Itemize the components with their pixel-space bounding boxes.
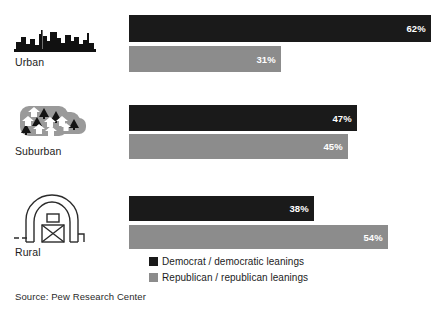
legend-swatch-democrat-icon	[149, 257, 158, 266]
legend-label-republican: Republican / republican leanings	[162, 272, 308, 283]
bar-rural-democrat: 38%	[129, 196, 314, 221]
bar-value-urban-republican: 31%	[256, 54, 281, 65]
bar-urban-republican: 31%	[129, 46, 281, 72]
bar-track-urban-democrat: 62%	[129, 15, 439, 42]
bar-chart: Urban 62% 31%	[0, 0, 443, 309]
bar-value-urban-democrat: 62%	[406, 23, 431, 34]
legend-label-democrat: Democrat / democratic leanings	[162, 256, 304, 267]
category-group-rural: Rural 38% 54%	[0, 190, 443, 258]
bar-rural-republican: 54%	[129, 225, 388, 249]
barn-icon	[12, 190, 98, 246]
bar-value-suburban-democrat: 47%	[332, 113, 357, 124]
category-group-suburban: Suburban 47% 45%	[0, 100, 443, 165]
bar-urban-democrat: 62%	[129, 15, 431, 42]
source-note: Source: Pew Research Center	[15, 291, 146, 302]
bar-track-suburban-democrat: 47%	[129, 105, 439, 131]
category-label-rural: Rural	[15, 246, 41, 258]
bar-track-rural-democrat: 38%	[129, 196, 439, 221]
category-label-urban: Urban	[15, 56, 44, 68]
legend-item-republican: Republican / republican leanings	[149, 270, 379, 285]
legend-item-democrat: Democrat / democratic leanings	[149, 254, 379, 269]
bar-value-rural-democrat: 38%	[289, 203, 314, 214]
legend-swatch-republican-icon	[149, 273, 158, 282]
bar-suburban-republican: 45%	[129, 134, 348, 159]
category-group-urban: Urban 62% 31%	[0, 10, 443, 80]
bar-suburban-democrat: 47%	[129, 105, 357, 131]
bar-value-rural-republican: 54%	[363, 232, 388, 243]
bar-track-rural-republican: 54%	[129, 225, 439, 249]
chart-legend: Democrat / democratic leanings Republica…	[149, 254, 379, 286]
bar-track-suburban-republican: 45%	[129, 134, 439, 159]
suburban-houses-icon	[14, 102, 96, 144]
bar-value-suburban-republican: 45%	[323, 141, 348, 152]
category-label-suburban: Suburban	[15, 145, 61, 157]
bar-track-urban-republican: 31%	[129, 46, 439, 72]
